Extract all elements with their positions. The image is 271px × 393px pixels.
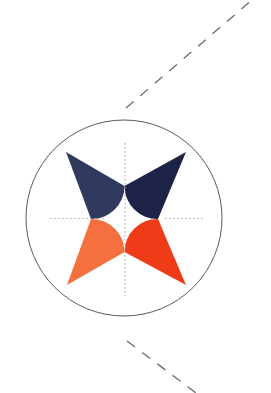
star-construction-diagram: Four-Pointed Concave Star Construction (0, 0, 271, 393)
diagram-canvas-root: Four-Pointed Concave Star Construction (0, 0, 271, 393)
